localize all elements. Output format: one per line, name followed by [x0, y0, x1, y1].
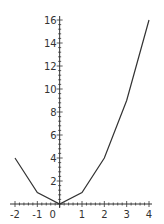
x-tick-label: 3 — [123, 209, 129, 220]
data-line — [15, 20, 149, 204]
x-tick-label: -1 — [32, 209, 42, 220]
x-tick-label: 2 — [101, 209, 107, 220]
x-tick-label: 4 — [146, 209, 152, 220]
y-tick-label: 16 — [44, 15, 57, 26]
axes — [10, 16, 152, 208]
line-chart: -2-101234 246810121416 — [0, 0, 164, 224]
x-tick-label: -2 — [10, 209, 20, 220]
y-tick-label: 14 — [44, 38, 57, 49]
y-tick-label: 12 — [44, 61, 57, 72]
x-tick-label: 1 — [79, 209, 85, 220]
y-tick-label: 4 — [50, 153, 56, 164]
y-tick-label: 2 — [50, 176, 56, 187]
y-tick-label: 8 — [50, 107, 56, 118]
y-tick-label: 6 — [50, 130, 56, 141]
x-tick-label: 0 — [49, 209, 55, 220]
y-tick-label: 10 — [44, 84, 57, 95]
